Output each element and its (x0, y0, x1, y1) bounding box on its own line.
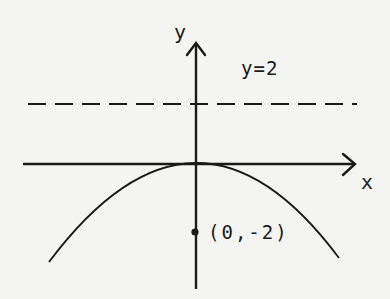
x-axis-label: x (361, 172, 373, 192)
diagram-canvas: y x y=2 (0,-2) (0, 0, 390, 299)
focus-point-label: (0,-2) (208, 223, 289, 242)
directrix-label: y=2 (241, 59, 278, 78)
focus-point (191, 228, 198, 235)
y-axis-label: y (174, 22, 186, 42)
parabola-curve (49, 163, 339, 262)
diagram-svg (0, 0, 390, 299)
